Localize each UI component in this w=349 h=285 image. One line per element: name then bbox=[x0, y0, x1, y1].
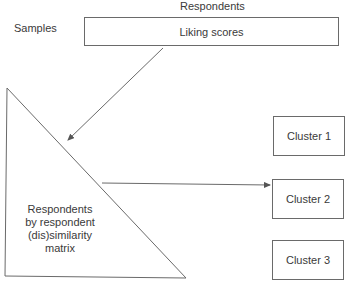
cluster-3-label: Cluster 3 bbox=[286, 254, 330, 266]
matrix-label-line: matrix bbox=[22, 242, 98, 255]
matrix-label-line: Respondents bbox=[22, 203, 98, 216]
samples-label: Samples bbox=[14, 22, 57, 34]
cluster-2-box: Cluster 2 bbox=[272, 179, 344, 219]
respondents-label: Respondents bbox=[180, 0, 245, 12]
cluster-2-label: Cluster 2 bbox=[286, 193, 330, 205]
cluster-3-box: Cluster 3 bbox=[272, 240, 344, 280]
cluster-1-label: Cluster 1 bbox=[287, 130, 331, 142]
matrix-label-line: (dis)similarity bbox=[22, 229, 98, 242]
liking-scores-label: Liking scores bbox=[179, 26, 243, 38]
liking-scores-box: Liking scores bbox=[84, 17, 339, 46]
arrow-matrix-to-cluster2 bbox=[102, 183, 270, 185]
arrow-liking-to-matrix bbox=[68, 48, 163, 140]
matrix-label: Respondents by respondent (dis)similarit… bbox=[22, 203, 98, 255]
matrix-label-line: by respondent bbox=[22, 216, 98, 229]
cluster-1-box: Cluster 1 bbox=[273, 116, 345, 156]
